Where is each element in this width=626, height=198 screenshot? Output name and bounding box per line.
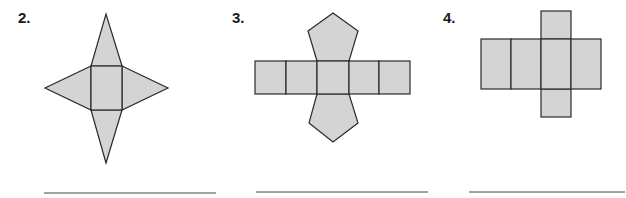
fig2-base-square — [91, 66, 122, 110]
fig3-face-1 — [255, 61, 286, 94]
fig4-top-tab — [541, 11, 571, 39]
fig4-face-1 — [481, 39, 511, 89]
figure-4-prism-net — [481, 11, 601, 117]
figures — [0, 0, 626, 198]
fig4-face-4 — [571, 39, 601, 89]
fig3-top-pentagon — [308, 13, 358, 61]
fig2-top-triangle — [91, 14, 122, 66]
fig4-face-2 — [511, 39, 541, 89]
figure-2-pyramid-net — [45, 14, 168, 163]
fig2-left-triangle — [45, 66, 91, 110]
fig3-face-5 — [379, 61, 410, 94]
fig3-face-4 — [349, 61, 379, 94]
fig3-face-2 — [286, 61, 317, 94]
fig2-right-triangle — [122, 66, 168, 110]
fig3-bottom-pentagon — [309, 94, 358, 142]
fig2-bottom-triangle — [91, 110, 122, 163]
figure-3-pentagonal-net — [255, 13, 410, 142]
fig3-face-3 — [317, 61, 349, 94]
fig4-face-3 — [541, 39, 571, 89]
fig4-bottom-tab — [541, 89, 571, 117]
